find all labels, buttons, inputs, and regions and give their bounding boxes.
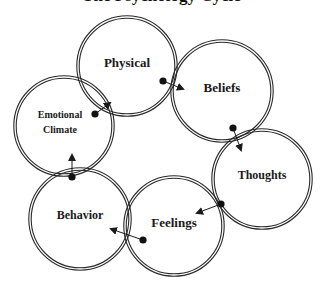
node-label-thoughts: Thoughts: [238, 168, 287, 182]
node-label-feelings: Feelings: [151, 215, 197, 230]
arrow-origin-dot-icon: [217, 200, 224, 207]
node-label-behavior: Behavior: [57, 208, 104, 222]
arrow-origin-dot-icon: [68, 173, 75, 180]
arrow-origin-dot-icon: [229, 124, 236, 131]
cycle-diagram: PhysicalBeliefsThoughtsFeelingsBehaviorE…: [0, 0, 323, 291]
node-label-emotional-climate: EmotionalClimate: [38, 109, 83, 135]
node-label-physical: Physical: [104, 55, 151, 70]
arrow-origin-dot-icon: [91, 110, 98, 117]
arrow-origin-dot-icon: [139, 236, 146, 243]
arrow-origin-dot-icon: [159, 77, 166, 84]
arrow-line-icon: [197, 204, 221, 213]
node-label-beliefs: Beliefs: [204, 80, 241, 95]
arrow-thoughts-to-feelings: [197, 200, 225, 213]
arrow-emotional-climate-to-physical: [91, 103, 110, 118]
